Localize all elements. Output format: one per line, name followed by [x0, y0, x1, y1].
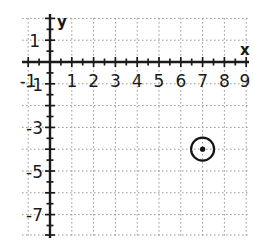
y-tick-label-neg3: -3: [26, 118, 43, 138]
x-axis-label: x: [240, 41, 250, 59]
x-tick-label-6: 6: [175, 71, 186, 91]
x-tick-label-2: 2: [88, 71, 99, 91]
x-tick-label-9: 9: [240, 71, 251, 91]
axis-name-labels: y x: [57, 13, 250, 59]
graph-canvas: -1 1 2 3 4 5 6 7 8 9 1 -1 -3 -5 -7 y x: [0, 0, 253, 241]
x-tick-label-3: 3: [110, 71, 121, 91]
y-tick-label-neg7: -7: [26, 205, 43, 225]
grid-lines: [22, 18, 250, 236]
plotted-point-dot[interactable]: [200, 147, 205, 152]
y-tick-label-neg5: -5: [26, 162, 43, 182]
x-tick-label-7: 7: [197, 71, 208, 91]
grid-vertical-lines: [28, 18, 246, 236]
y-tick-label-neg1: -1: [26, 75, 43, 95]
x-tick-label-4: 4: [132, 71, 143, 91]
x-tick-label-8: 8: [219, 71, 230, 91]
x-tick-label-5: 5: [154, 71, 165, 91]
x-tick-label-1: 1: [66, 71, 77, 91]
y-axis-label: y: [57, 13, 67, 31]
axes: [22, 14, 249, 238]
coordinate-plane-graph: -1 1 2 3 4 5 6 7 8 9 1 -1 -3 -5 -7 y x: [0, 0, 253, 241]
y-tick-label-1: 1: [29, 31, 40, 51]
grid-horizontal-lines: [22, 18, 250, 235]
x-axis-tick-labels: -1 1 2 3 4 5 6 7 8 9: [20, 71, 251, 91]
